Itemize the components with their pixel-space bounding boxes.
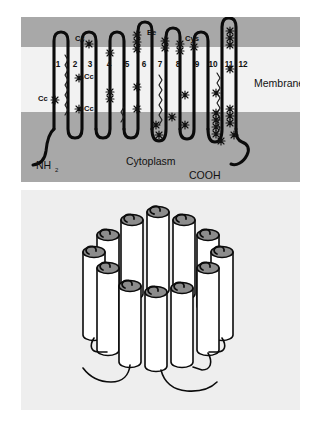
site-label-cc-2: Cc [84, 72, 94, 81]
helix-number-8: 8 [176, 60, 181, 69]
helix-number-3: 3 [88, 60, 93, 69]
site-label-cc-4: Cc [75, 34, 85, 43]
cylinder-front-1 [97, 262, 119, 355]
helix-number-11: 11 [225, 60, 234, 69]
cylinder-front-4 [145, 286, 167, 371]
helix-number-7: 7 [158, 60, 163, 69]
helix-number-12: 12 [238, 60, 248, 69]
site-label-ee: Ee [147, 28, 156, 37]
cylinder-front-5 [171, 282, 193, 367]
cylinder-front-2 [197, 262, 219, 355]
helix-number-5: 5 [125, 60, 130, 69]
helix-number-10: 10 [208, 60, 218, 69]
barrel-panel [21, 190, 300, 410]
n-terminus-label: NH [36, 159, 51, 171]
helix-number-9: 9 [195, 60, 200, 69]
site-label-cc-3: Cc [84, 104, 94, 113]
c-terminus-label: COOH [189, 169, 221, 181]
helix-number-6: 6 [142, 60, 147, 69]
site-label-cc-1: Cc [38, 94, 48, 103]
figure-container: 1 2 3 4 5 6 7 8 9 10 11 12 Cc Cc Cc Cc E… [0, 0, 321, 423]
cylinder-front-3 [119, 280, 141, 367]
barrel-svg [21, 190, 300, 410]
helix-number-1: 1 [56, 60, 61, 69]
topology-svg: 1 2 3 4 5 6 7 8 9 10 11 12 Cc Cc Cc Cc E… [21, 17, 300, 182]
topology-panel: 1 2 3 4 5 6 7 8 9 10 11 12 Cc Cc Cc Cc E… [21, 17, 300, 182]
cylinder-back-1 [147, 206, 169, 295]
helix-number-4: 4 [107, 60, 112, 69]
site-label-cys: Cys [185, 34, 199, 43]
membrane-label: Membrane [254, 77, 300, 89]
cytoplasm-label: Cytoplasm [126, 155, 176, 167]
helix-number-2: 2 [73, 60, 78, 69]
